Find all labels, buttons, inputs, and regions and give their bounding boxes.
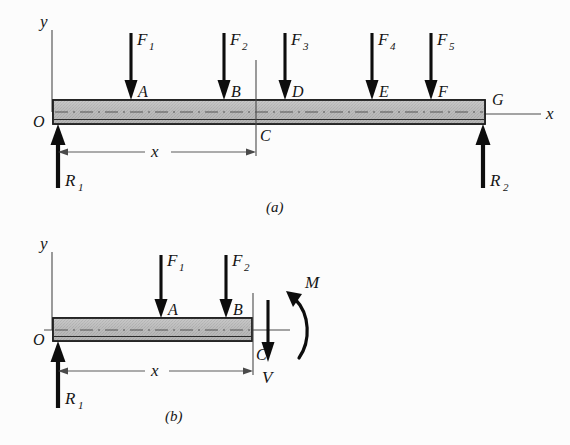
point-label-F-a: F <box>437 83 448 100</box>
force-F2-sublabel-b: 2 <box>244 261 250 273</box>
x-axis-label-a: x <box>545 104 554 123</box>
beam-a <box>53 100 485 124</box>
panel-a-caption: (a) <box>266 199 284 216</box>
force-F5-sublabel-a: 5 <box>449 40 455 52</box>
force-F4-label-a: F <box>377 30 389 49</box>
origin-label-b: O <box>33 331 45 348</box>
point-label-A-a: A <box>137 83 148 100</box>
force-F4-sublabel-a: 4 <box>390 40 396 52</box>
beam-diagram-figure: y x O F 1 A <box>0 0 570 445</box>
point-label-G-a: G <box>492 91 504 108</box>
y-axis-label-a: y <box>38 12 48 31</box>
force-F2-label-a: F <box>229 30 241 49</box>
point-label-B-b: B <box>233 301 243 318</box>
dimension-x-label-a: x <box>150 142 159 161</box>
reaction-R1-sublabel-b: 1 <box>78 399 84 411</box>
figure-canvas: y x O F 1 A <box>0 0 570 445</box>
force-F1-sublabel-a: 1 <box>149 40 155 52</box>
panel-b-caption: (b) <box>165 408 183 425</box>
force-F3-label-a: F <box>290 30 302 49</box>
force-F2-label-b: F <box>231 251 243 270</box>
force-F2-sublabel-a: 2 <box>242 40 248 52</box>
point-label-A-b: A <box>167 301 178 318</box>
point-label-D-a: D <box>291 83 304 100</box>
force-F1-sublabel-b: 1 <box>179 261 185 273</box>
force-F5-label-a: F <box>436 30 448 49</box>
force-F1-label-b: F <box>166 251 178 270</box>
reaction-R1-label-a: R <box>64 171 76 190</box>
moment-M-label-b: M <box>304 273 320 292</box>
reaction-R2-sublabel-a: 2 <box>503 181 509 193</box>
dimension-x-label-b: x <box>150 361 159 380</box>
origin-label-a: O <box>33 113 45 130</box>
beam-b <box>53 318 252 341</box>
point-label-B-a: B <box>231 83 241 100</box>
reaction-R1-label-b: R <box>64 389 76 408</box>
force-F1-label-a: F <box>136 30 148 49</box>
y-axis-label-b: y <box>38 234 48 253</box>
point-label-E-a: E <box>378 83 389 100</box>
force-F3-sublabel-a: 3 <box>302 40 309 52</box>
reaction-R1-sublabel-a: 1 <box>78 181 84 193</box>
section-cut-label-a: C <box>260 127 271 144</box>
reaction-R2-label-a: R <box>489 171 501 190</box>
